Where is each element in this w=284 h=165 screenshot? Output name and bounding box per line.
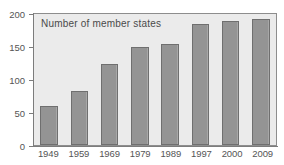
bar	[101, 64, 119, 145]
y-tick-label-50: 50	[14, 108, 25, 119]
x-tick-label: 1997	[186, 148, 217, 164]
y-tick-label-0: 0	[20, 141, 25, 152]
bar	[40, 106, 58, 145]
bar	[252, 19, 270, 145]
plot-area: Number of member states	[33, 13, 277, 146]
bar-slot	[185, 14, 215, 145]
bar	[131, 47, 149, 145]
bar-slot	[155, 14, 185, 145]
bar	[161, 44, 179, 145]
x-tick-label: 2009	[247, 148, 278, 164]
bar-chart: 200 150 100 50 0 Number of member states…	[0, 0, 284, 165]
bar	[222, 21, 240, 145]
x-tick-label: 1959	[64, 148, 95, 164]
bar-slot	[216, 14, 246, 145]
y-axis: 200 150 100 50 0	[0, 0, 33, 165]
bar-slot	[34, 14, 64, 145]
bar-slot	[95, 14, 125, 145]
bar-slot	[125, 14, 155, 145]
bar	[71, 91, 89, 145]
y-tick-label-200: 200	[9, 9, 25, 20]
x-axis-line	[33, 146, 278, 147]
bar-series	[34, 14, 276, 145]
y-tick-label-150: 150	[9, 42, 25, 53]
legend-label: Number of member states	[41, 18, 161, 29]
bar-slot	[64, 14, 94, 145]
y-axis-line	[33, 13, 34, 147]
x-tick-label: 1969	[94, 148, 125, 164]
bar	[192, 24, 210, 145]
bar-slot	[246, 14, 276, 145]
y-tick-label-100: 100	[9, 75, 25, 86]
x-tick-label: 1979	[125, 148, 156, 164]
x-tick-label: 1949	[33, 148, 64, 164]
x-tick-label: 1989	[156, 148, 187, 164]
x-tick-label: 2000	[217, 148, 248, 164]
x-axis-labels: 19491959196919791989199720002009	[33, 148, 278, 164]
